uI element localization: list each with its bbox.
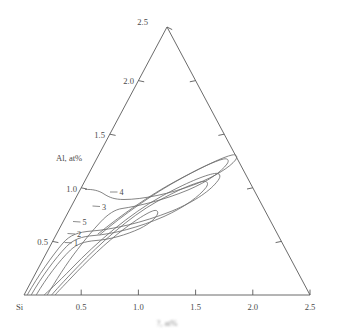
right-tick-c	[247, 188, 253, 189]
triangle-right-edge	[167, 27, 310, 295]
contour-label-1: 1	[74, 239, 78, 248]
contour-curve-4	[86, 155, 237, 235]
bottom-axis-ticks	[81, 290, 310, 295]
left-tick-label-2_5: 2.5	[137, 17, 148, 27]
triangle-left-edge	[24, 27, 167, 295]
left-tick-label-1_0: 1.0	[66, 184, 77, 194]
contour-label-5: 5	[83, 218, 87, 227]
bottom-tick-label-2_0: 2.0	[247, 302, 258, 312]
contour-label-2: 2	[77, 230, 81, 239]
contour-curves	[28, 155, 237, 295]
right-tick-a	[190, 81, 196, 82]
left-tick-0_5	[53, 241, 59, 242]
leader-line-2	[68, 234, 76, 235]
bottom-tick-label-1_5: 1.5	[190, 302, 201, 312]
bottom-tick-label-1_0: 1.0	[133, 302, 144, 312]
leader-line-5	[73, 222, 81, 223]
contour-label-4: 4	[120, 188, 124, 197]
ternary-diagram-figure: 2.5 2.0 1.5 1.0 0.5 Al, at% Si 0.5 1.0 1…	[0, 0, 337, 336]
contour-number-labels: 1 2 5 3 4	[74, 188, 124, 248]
left-tick-label-0_5: 0.5	[37, 237, 48, 247]
left-tick-label-1_5: 1.5	[94, 130, 105, 140]
bottom-axis-title: ?, at%	[157, 319, 178, 328]
bottom-axis-tick-labels: 0.5 1.0 1.5 2.0 2.5	[76, 302, 316, 312]
corner-label-si: Si	[16, 302, 24, 312]
left-tick-1_0	[81, 188, 87, 189]
left-tick-2_0	[138, 81, 144, 82]
left-axis-tick-labels: 2.5 2.0 1.5 1.0 0.5	[37, 17, 148, 247]
bottom-tick-label-2_5: 2.5	[305, 302, 316, 312]
right-tick-d	[276, 241, 282, 242]
contour-label-3: 3	[102, 203, 106, 212]
left-axis-title: Al, at%	[56, 153, 82, 163]
left-tick-1_5	[110, 134, 116, 135]
bottom-tick-label-0_5: 0.5	[76, 302, 87, 312]
leader-line-3	[93, 206, 101, 207]
right-axis-ticks	[190, 81, 282, 243]
ternary-plot-canvas: 2.5 2.0 1.5 1.0 0.5 Al, at% Si 0.5 1.0 1…	[0, 0, 337, 336]
right-tick-b	[218, 134, 224, 135]
left-tick-label-2_0: 2.0	[123, 76, 134, 86]
